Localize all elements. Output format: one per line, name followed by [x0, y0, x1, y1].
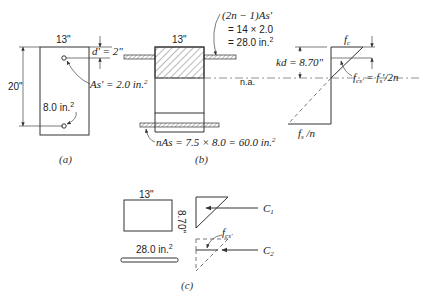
transformed-comp-line1: (2n − 1)As' — [222, 9, 273, 22]
tension-stress-line — [288, 78, 331, 124]
depth-label-c: 8.70" — [176, 210, 187, 233]
caption-c: (c) — [181, 279, 194, 292]
c1-label: C1 — [263, 202, 274, 216]
width-label-a: 13" — [56, 34, 71, 45]
compression-stress-line — [331, 47, 363, 78]
beam-section-diagram: 13" 20" d' = 2" As' = 2.0 in.2 8.0 in.2 … — [0, 0, 423, 299]
fs-n-label: fs /n — [298, 127, 316, 141]
transformed-comp-line2: = 14 × 2.0 — [228, 24, 273, 35]
fc-label: fc — [344, 33, 351, 47]
neutral-axis-label: n.a. — [240, 77, 255, 87]
compression-zone-hatched — [155, 47, 204, 78]
panel-b: 13" n.a. (2n − 1)As' = 14 × 2.0 = 28.0 i… — [124, 9, 420, 166]
transformed-steel-bar-c — [121, 258, 178, 262]
width-label-b: 13" — [172, 34, 187, 45]
transformed-tension-label: nAs = 7.5 × 8.0 = 60.0 in.2 — [156, 136, 276, 148]
transformed-comp-line3: = 28.0 in.2 — [228, 36, 273, 48]
transformed-tension-steel — [140, 123, 219, 127]
height-label-a: 20" — [8, 81, 23, 92]
panel-a: 13" 20" d' = 2" As' = 2.0 in.2 8.0 in.2 … — [8, 34, 148, 166]
kd-label: kd = 8.70" — [276, 56, 324, 68]
as-prime-label: As' = 2.0 in.2 — [89, 78, 148, 90]
c2-label: C2 — [263, 244, 274, 258]
dprime-label: d' = 2" — [92, 45, 123, 57]
caption-a: (a) — [59, 153, 72, 166]
area-label-c: 28.0 in.2 — [136, 243, 173, 255]
compression-bar — [62, 56, 66, 60]
caption-b: (b) — [195, 153, 208, 166]
fcs-label-c: fcs' — [222, 226, 233, 240]
transformed-comp-steel-left — [124, 55, 155, 59]
fcs-label: fcs' = fs'/2n — [353, 71, 399, 85]
transformed-comp-steel-right — [204, 55, 236, 59]
width-label-c: 13" — [139, 189, 154, 200]
concrete-compression-block — [124, 200, 172, 231]
as-label: 8.0 in.2 — [43, 101, 74, 113]
stress-diagram: fc kd = 8.70" fcs' = fs'/2n fs /n — [276, 33, 399, 141]
panel-c: 13" 8.70" 28.0 in.2 C1 C2 fcs' (c) — [121, 189, 274, 292]
c1-stress-triangle — [196, 197, 228, 228]
